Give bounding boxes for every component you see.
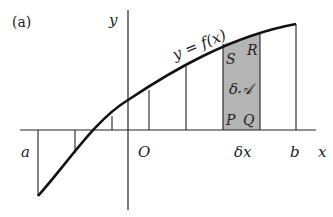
bound-b-label: b [290,143,300,161]
y-axis-label: y [108,11,118,29]
delta-x-label: δx [234,143,252,161]
area-under-curve-diagram: (a) y x O a b δx y = f(x) S R δ𝒜 P Q [0,0,333,217]
origin-label: O [138,143,150,161]
panel-label: (a) [12,14,31,30]
corner-R: R [246,42,258,58]
corner-S: S [226,51,236,67]
x-axis-label: x [318,143,327,161]
corner-Q: Q [243,112,255,128]
corner-P: P [225,112,236,128]
bound-a-label: a [21,143,30,161]
